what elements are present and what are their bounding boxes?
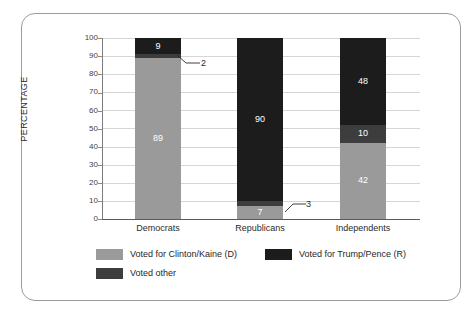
bar-value-republicans-trump: 90 — [255, 115, 265, 124]
x-axis-line — [102, 219, 420, 220]
bar-value-democrats-trump: 9 — [155, 42, 160, 51]
bar-value-republicans-clinton: 7 — [257, 208, 262, 217]
y-tick-70: 70 — [70, 88, 98, 96]
legend-swatch-other-icon — [96, 268, 123, 279]
bar-segment-republicans-clinton[interactable]: 7 — [237, 206, 283, 219]
y-tick-100: 100 — [70, 34, 98, 42]
legend-swatch-clinton-icon — [96, 249, 123, 260]
y-tick-80: 80 — [70, 70, 98, 78]
legend-row-2: Voted other — [96, 268, 436, 287]
chart-legend: Voted for Clinton/Kaine (D) Voted for Tr… — [96, 249, 436, 287]
legend-label-other: Voted other — [130, 269, 176, 278]
y-tick-60: 60 — [70, 107, 98, 115]
legend-item-other[interactable]: Voted other — [96, 268, 176, 279]
y-tick-90: 90 — [70, 52, 98, 60]
bar-segment-democrats-trump[interactable]: 9 — [135, 38, 181, 54]
legend-row-1: Voted for Clinton/Kaine (D) Voted for Tr… — [96, 249, 436, 268]
bar-value-independents-other: 10 — [358, 129, 368, 138]
bar-segment-democrats-other[interactable]: 2 — [135, 54, 181, 58]
y-tick-50: 50 — [70, 125, 98, 133]
x-category-republicans: Republicans — [210, 224, 310, 233]
y-tick-20: 20 — [70, 179, 98, 187]
y-tick-0: 0 — [70, 215, 98, 223]
legend-item-clinton[interactable]: Voted for Clinton/Kaine (D) — [96, 249, 237, 260]
bar-value-independents-trump: 48 — [358, 77, 368, 86]
callout-leader-line-democrats — [176, 54, 202, 70]
callout-value-democrats-other: 2 — [201, 59, 206, 68]
x-category-independents: Independents — [313, 224, 413, 233]
bar-segment-independents-clinton[interactable]: 42 — [340, 143, 386, 219]
legend-label-trump: Voted for Trump/Pence (R) — [299, 250, 406, 259]
bar-value-independents-clinton: 42 — [358, 176, 368, 185]
bar-segment-independents-trump[interactable]: 48 — [340, 38, 386, 125]
y-tick-30: 30 — [70, 161, 98, 169]
y-axis-title: PERCENTAGE — [19, 49, 29, 169]
bar-segment-independents-other[interactable]: 10 — [340, 125, 386, 143]
legend-item-trump[interactable]: Voted for Trump/Pence (R) — [265, 249, 406, 260]
y-tick-10: 10 — [70, 197, 98, 205]
legend-label-clinton: Voted for Clinton/Kaine (D) — [130, 250, 237, 259]
y-tick-40: 40 — [70, 143, 98, 151]
callout-leader-line-republicans — [284, 200, 308, 214]
bar-segment-republicans-other[interactable]: 3 — [237, 201, 283, 206]
bar-value-democrats-clinton: 89 — [153, 134, 163, 143]
legend-swatch-trump-icon — [265, 249, 292, 260]
bar-segment-democrats-clinton[interactable]: 89 — [135, 58, 181, 219]
y-axis-ticks: 100 90 80 70 60 50 40 30 20 10 0 — [66, 0, 98, 313]
bar-segment-republicans-trump[interactable]: 90 — [237, 38, 283, 201]
plot-area: 89 2 9 7 3 90 42 — [103, 38, 420, 219]
x-category-democrats: Democrats — [108, 224, 208, 233]
callout-value-republicans-other: 3 — [306, 200, 311, 209]
